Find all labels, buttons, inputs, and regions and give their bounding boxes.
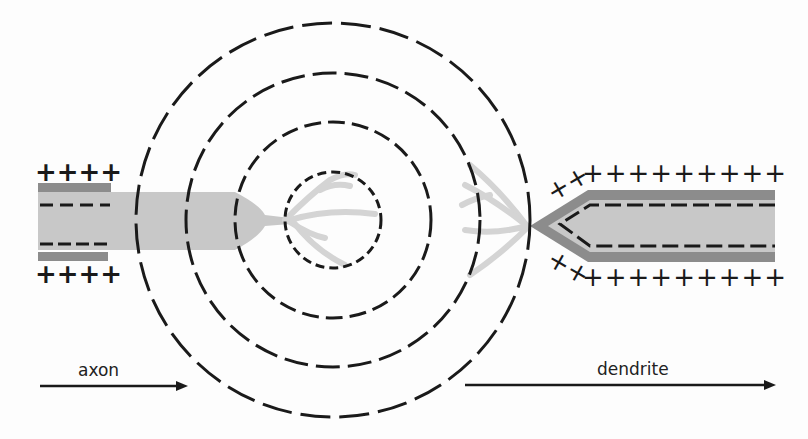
neuron-field-diagram: ++++ ++++ +++++++++ +++++++++ ++ ++ xyxy=(0,0,808,439)
svg-text:++++: ++++ xyxy=(35,259,122,289)
svg-text:+++++++++: +++++++++ xyxy=(582,158,787,188)
svg-text:++++: ++++ xyxy=(35,157,122,187)
axon-fiber xyxy=(38,183,290,261)
axon-positive-charges-top: ++++ xyxy=(35,157,122,187)
axon-arrow xyxy=(40,381,188,391)
dendrite-label: dendrite xyxy=(597,359,669,379)
dendrite-branches xyxy=(462,165,527,275)
svg-text:+++++++++: +++++++++ xyxy=(582,262,787,292)
dendrite-arrow xyxy=(465,380,776,390)
axon-label: axon xyxy=(78,360,119,380)
axon-positive-charges-bottom: ++++ xyxy=(35,259,122,289)
